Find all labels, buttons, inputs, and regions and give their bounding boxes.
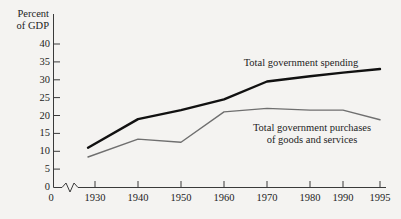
series-line-total-government-purchases (88, 108, 380, 157)
chart-plot-area (0, 0, 401, 219)
y-tick-marks (54, 44, 61, 169)
x-axis-break-zigzag-icon (62, 183, 78, 192)
chart-figure: Percent of GDP 40 35 30 25 20 15 10 5 0 … (0, 0, 401, 219)
series-line-total-government-spending (88, 69, 380, 148)
x-tick-marks (95, 181, 380, 188)
